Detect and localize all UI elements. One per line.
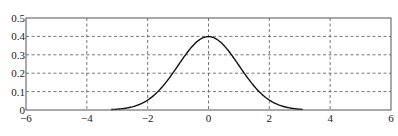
chart: −6−4−20246 00.10.20.30.40.5	[0, 0, 398, 136]
x-tick-label: 4	[327, 112, 333, 124]
y-tick-label: 0.5	[11, 12, 25, 24]
y-tick-label: 0.3	[11, 49, 25, 61]
x-tick-label: 0	[206, 112, 212, 124]
x-tick-label: −2	[142, 112, 154, 124]
y-tick-label: 0	[20, 104, 26, 116]
line-chart: −6−4−20246 00.10.20.30.40.5	[0, 0, 398, 136]
x-tick-label: −4	[81, 112, 93, 124]
x-axis-tick-labels: −6−4−20246	[20, 112, 394, 124]
y-axis-tick-labels: 00.10.20.30.40.5	[11, 12, 25, 116]
x-tick-label: 2	[267, 112, 273, 124]
x-tick-label: 6	[388, 112, 394, 124]
gridlines	[26, 18, 391, 110]
y-tick-label: 0.1	[11, 86, 25, 98]
y-tick-label: 0.4	[11, 30, 25, 42]
y-tick-label: 0.2	[11, 67, 25, 79]
